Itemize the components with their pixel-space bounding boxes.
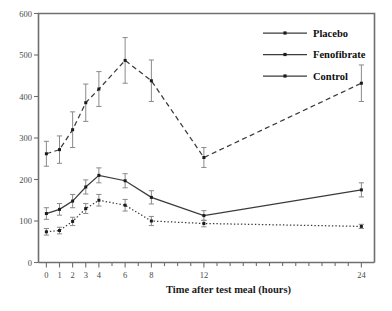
data-point[interactable] bbox=[45, 230, 48, 233]
y-axis: 0100200300400500600 bbox=[19, 9, 38, 268]
y-tick-label: 500 bbox=[19, 50, 32, 60]
data-point[interactable] bbox=[150, 220, 153, 223]
data-point[interactable] bbox=[360, 225, 363, 228]
data-point[interactable] bbox=[45, 212, 48, 215]
data-point[interactable] bbox=[202, 222, 205, 225]
data-point[interactable] bbox=[71, 220, 74, 223]
data-point[interactable] bbox=[202, 156, 205, 159]
chart-figure: 010020030040050060001234681224Time after… bbox=[0, 0, 392, 311]
data-point[interactable] bbox=[150, 79, 153, 82]
y-tick-label: 400 bbox=[19, 92, 32, 102]
legend-marker-placebo bbox=[283, 31, 286, 34]
data-point[interactable] bbox=[124, 59, 127, 62]
data-point[interactable] bbox=[84, 101, 87, 104]
x-axis: 01234681224 bbox=[44, 263, 366, 280]
x-tick-label: 12 bbox=[200, 270, 209, 280]
x-tick-label: 2 bbox=[71, 270, 75, 280]
data-point[interactable] bbox=[97, 199, 100, 202]
data-point[interactable] bbox=[58, 208, 61, 211]
data-point[interactable] bbox=[58, 229, 61, 232]
legend-label-placebo: Placebo bbox=[313, 28, 348, 39]
data-point[interactable] bbox=[124, 204, 127, 207]
data-point[interactable] bbox=[202, 214, 205, 217]
data-point[interactable] bbox=[360, 188, 363, 191]
y-tick-label: 600 bbox=[19, 9, 32, 19]
x-tick-label: 8 bbox=[149, 270, 153, 280]
legend-label-control: Control bbox=[313, 71, 348, 82]
x-tick-label: 1 bbox=[57, 270, 61, 280]
x-axis-title: Time after test meal (hours) bbox=[166, 284, 291, 296]
data-point[interactable] bbox=[97, 88, 100, 91]
y-tick-label: 100 bbox=[19, 216, 32, 226]
y-tick-label: 300 bbox=[19, 133, 32, 143]
data-point[interactable] bbox=[58, 148, 61, 151]
chart-canvas: 010020030040050060001234681224Time after… bbox=[0, 0, 392, 311]
data-point[interactable] bbox=[150, 196, 153, 199]
x-tick-label: 0 bbox=[44, 270, 48, 280]
data-point[interactable] bbox=[97, 174, 100, 177]
legend-label-fenofibrate: Fenofibrate bbox=[313, 49, 366, 60]
x-tick-label: 4 bbox=[97, 270, 102, 280]
y-tick-label: 200 bbox=[19, 175, 32, 185]
legend: PlaceboFenofibrateControl bbox=[263, 28, 366, 82]
legend-marker-fenofibrate bbox=[283, 53, 286, 56]
error-bars bbox=[44, 168, 364, 221]
data-point[interactable] bbox=[84, 185, 87, 188]
y-tick-label: 0 bbox=[28, 258, 32, 268]
data-point[interactable] bbox=[360, 82, 363, 85]
series-fenofibrate bbox=[44, 168, 364, 221]
x-tick-label: 6 bbox=[123, 270, 127, 280]
data-point[interactable] bbox=[71, 200, 74, 203]
data-point[interactable] bbox=[84, 207, 87, 210]
data-point[interactable] bbox=[124, 179, 127, 182]
legend-marker-control bbox=[283, 74, 286, 77]
x-tick-label: 3 bbox=[84, 270, 88, 280]
data-point[interactable] bbox=[71, 128, 74, 131]
x-tick-label: 24 bbox=[357, 270, 366, 280]
data-point[interactable] bbox=[45, 152, 48, 155]
series-line bbox=[46, 175, 361, 215]
